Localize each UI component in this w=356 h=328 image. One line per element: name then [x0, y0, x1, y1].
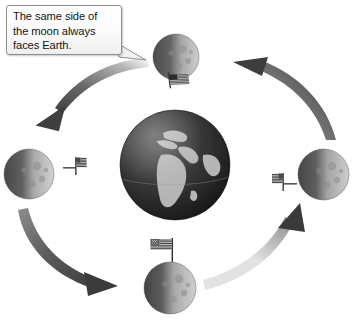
callout-box: The same side of the moon always faces E…	[6, 5, 122, 55]
moon-orbit-diagram: The same side of the moon always faces E…	[0, 0, 356, 328]
flag-top-icon	[166, 71, 192, 93]
flag-left-icon	[63, 157, 87, 179]
earth-globe	[119, 109, 231, 221]
orbit-arrow-lower-left	[18, 208, 118, 296]
flag-right-icon	[271, 173, 297, 195]
flag-bottom-icon	[150, 238, 180, 262]
moon-right	[297, 148, 350, 201]
moon-left	[3, 148, 55, 200]
orbit-arrow-upper-right	[233, 57, 336, 140]
moon-bottom	[143, 261, 197, 315]
callout-text: The same side of the moon always faces E…	[13, 9, 118, 53]
